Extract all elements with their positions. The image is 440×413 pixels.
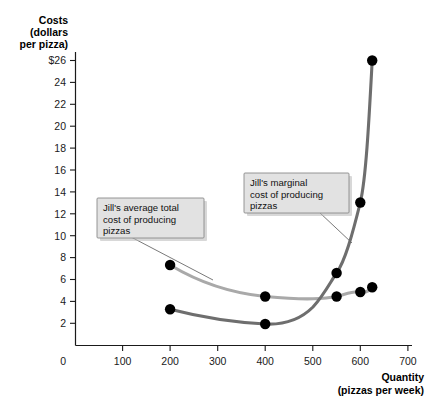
y-tick-label: 12 [54,208,66,220]
atc-callout-line: pizzas [103,225,130,236]
y-tick-label: 0 [60,355,66,367]
y-tick-label: 20 [54,120,66,132]
data-point [331,268,341,278]
x-axis-title-line: (pizzas per week) [338,384,424,396]
data-point [260,291,270,301]
x-tick-label: 100 [114,355,132,367]
x-tick-label: 400 [256,355,274,367]
x-tick-label: 200 [161,355,179,367]
data-point [355,287,365,297]
data-point [355,197,365,207]
y-tick-label: 6 [60,273,66,285]
data-point [367,55,377,65]
data-point [331,291,341,301]
atc-callout-line: Jill's average total [103,202,179,213]
y-axis-title-line: Costs [39,14,68,26]
cost-curves-chart: $26 24 22 20 18 16 14 12 10 8 6 4 2 0 10… [0,0,440,413]
x-tick-label: 300 [209,355,227,367]
y-tick-label: 4 [60,295,66,307]
data-point [165,260,175,270]
y-axis-title-line: per pizza) [20,38,68,50]
mc-callout-line: Jill's marginal [250,177,307,188]
x-tick-label: 600 [352,355,370,367]
y-tick-label: 14 [54,186,66,198]
y-tick-label: 22 [54,98,66,110]
x-tick-label: 700 [399,355,417,367]
y-tick-label: $26 [48,54,66,66]
y-tick-label: 8 [60,251,66,263]
data-point [165,304,175,314]
x-axis-title-line: Quantity [381,371,424,383]
y-axis-title-line: (dollars [30,26,68,38]
data-point [260,319,270,329]
data-point [367,282,377,292]
x-tick-label: 500 [304,355,322,367]
mc-callout-line: pizzas [250,200,277,211]
y-tick-label: 24 [54,76,66,88]
y-tick-label: 2 [60,317,66,329]
y-tick-label: 16 [54,164,66,176]
y-tick-label: 10 [54,230,66,242]
atc-callout-line: cost of producing [103,214,176,225]
y-tick-label: 18 [54,142,66,154]
mc-callout-line: cost of producing [250,189,323,200]
